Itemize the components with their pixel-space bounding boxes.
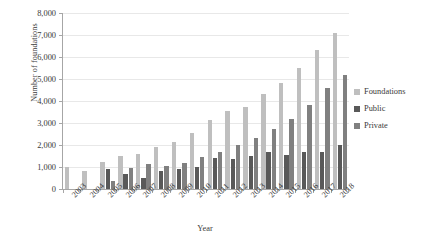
x-tick-cell: 2017 (312, 190, 330, 224)
bar-foundations (190, 133, 194, 189)
bar-private (236, 145, 240, 189)
y-tick-label: 5,000 (8, 75, 56, 84)
bar-group (81, 13, 99, 189)
x-tick-cell: 2006 (116, 190, 134, 224)
bar-public (177, 169, 181, 189)
bar-private (307, 105, 311, 189)
legend-item: Public (354, 100, 433, 117)
bar-foundations (279, 83, 283, 189)
legend-swatch-icon (354, 106, 360, 112)
bar-foundations (297, 68, 301, 189)
bar-foundations (333, 33, 337, 189)
bar-group (63, 13, 81, 189)
bar-group (295, 13, 313, 189)
legend-item: Private (354, 117, 433, 134)
bar-public (284, 155, 288, 189)
bar-foundations (65, 167, 69, 189)
x-tick-cell: 2009 (169, 190, 187, 224)
legend-label: Private (364, 121, 388, 130)
x-tick-cell: 2012 (223, 190, 241, 224)
bar-private (289, 119, 293, 189)
y-tick-label: 8,000 (8, 9, 56, 18)
bar-group (152, 13, 170, 189)
x-tick-cell: 2008 (151, 190, 169, 224)
bar-group (135, 13, 153, 189)
bar-foundations (172, 142, 176, 189)
x-tick-cell: 2011 (205, 190, 223, 224)
bar-group (278, 13, 296, 189)
y-tick-label: 6,000 (8, 53, 56, 62)
bar-group (224, 13, 242, 189)
x-axis-title: Year (62, 224, 348, 233)
legend-label: Foundations (364, 87, 405, 96)
y-axis-tick-labels: 8,0007,0006,0005,0004,0003,0002,0001,000… (8, 0, 56, 247)
x-tick-cell: 2015 (277, 190, 295, 224)
x-tick-cell: 2014 (259, 190, 277, 224)
y-tick-label: 0 (8, 185, 56, 194)
bar-public (266, 152, 270, 189)
bar-group (260, 13, 278, 189)
bar-private (343, 75, 347, 189)
legend: FoundationsPublicPrivate (354, 83, 433, 134)
bar-public (159, 171, 163, 189)
x-tick-cell: 2003 (62, 190, 80, 224)
y-tick-label: 7,000 (8, 31, 56, 40)
bar-public (249, 156, 253, 189)
bar-foundations (225, 111, 229, 189)
bar-group (242, 13, 260, 189)
bar-foundations (315, 50, 319, 189)
bar-groups (63, 13, 349, 189)
bar-group (331, 13, 349, 189)
x-tick-cell: 2013 (241, 190, 259, 224)
y-tick-label: 1,000 (8, 163, 56, 172)
bar-group (313, 13, 331, 189)
bar-public (123, 174, 127, 189)
legend-swatch-icon (354, 89, 360, 95)
chart-figure: Number of foundations 8,0007,0006,0005,0… (0, 0, 433, 247)
bar-public (320, 152, 324, 189)
bar-public (106, 169, 110, 189)
x-tick-cell: 2007 (134, 190, 152, 224)
x-tick-cell: 2004 (80, 190, 98, 224)
x-tick-cell: 2005 (98, 190, 116, 224)
bar-public (195, 167, 199, 189)
x-tick-cell: 2018 (330, 190, 348, 224)
bar-group (99, 13, 117, 189)
bar-group (188, 13, 206, 189)
y-tick-label: 4,000 (8, 97, 56, 106)
x-tick-cell: 2010 (187, 190, 205, 224)
bar-public (302, 152, 306, 189)
y-tick-label: 3,000 (8, 119, 56, 128)
bar-private (254, 138, 258, 189)
x-axis-tick-labels: 2003200420052006200720082009201020112012… (62, 190, 348, 224)
bar-foundations (261, 94, 265, 189)
bar-group (170, 13, 188, 189)
y-tick-label: 2,000 (8, 141, 56, 150)
bar-private (325, 88, 329, 189)
bar-group (117, 13, 135, 189)
plot-area (62, 13, 349, 190)
bar-group (206, 13, 224, 189)
bar-foundations (243, 107, 247, 190)
bar-public (231, 159, 235, 189)
legend-label: Public (364, 104, 385, 113)
bar-private (272, 129, 276, 190)
legend-swatch-icon (354, 123, 360, 129)
bar-foundations (208, 120, 212, 189)
x-tick-cell: 2016 (294, 190, 312, 224)
bar-public (213, 158, 217, 189)
legend-item: Foundations (354, 83, 433, 100)
bar-public (338, 145, 342, 189)
